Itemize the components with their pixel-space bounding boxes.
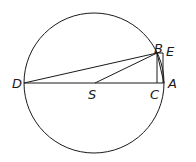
segment-DB <box>24 53 157 83</box>
label-B: B <box>154 41 163 56</box>
label-C: C <box>150 87 160 102</box>
label-E: E <box>166 44 175 59</box>
label-S: S <box>88 87 96 102</box>
label-A: A <box>167 76 177 91</box>
geometry-diagram: D S C A B E <box>0 0 196 162</box>
segment-SB <box>95 53 157 83</box>
label-D: D <box>12 76 22 91</box>
